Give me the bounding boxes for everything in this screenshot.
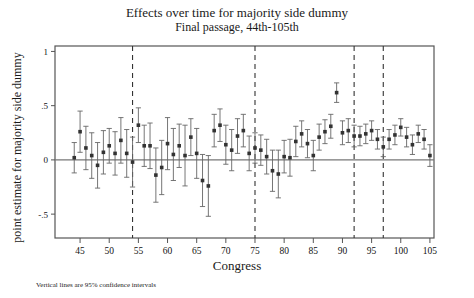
- point-estimate-marker: [381, 145, 385, 149]
- point-estimate-marker: [294, 140, 298, 144]
- point-estimate-marker: [119, 139, 123, 143]
- x-tick-label: 50: [104, 246, 114, 256]
- y-tick-group: 1.50-.5: [38, 47, 55, 220]
- point-estimate-marker: [288, 156, 292, 160]
- x-tick-label: 75: [250, 246, 260, 256]
- point-estimate-marker: [107, 144, 111, 148]
- point-estimate-marker: [416, 132, 420, 136]
- x-tick-label: 65: [192, 246, 202, 256]
- point-estimate-marker: [364, 132, 368, 136]
- point-estimate-marker: [370, 129, 374, 133]
- point-estimate-marker: [422, 137, 426, 141]
- y-tick-label: .5: [41, 101, 48, 111]
- x-tick-label: 100: [394, 246, 409, 256]
- point-estimate-marker: [218, 123, 222, 127]
- point-estimate-marker: [172, 153, 176, 157]
- x-tick-label: 60: [163, 246, 173, 256]
- point-estimate-marker: [177, 144, 181, 148]
- point-estimate-marker: [72, 156, 76, 160]
- point-estimate-marker: [411, 143, 415, 147]
- point-estimate-marker: [166, 142, 170, 146]
- point-estimate-marker: [399, 126, 403, 130]
- point-estimate-marker: [376, 137, 380, 141]
- y-tick-label: 0: [44, 155, 49, 165]
- point-estimate-marker: [323, 130, 327, 134]
- point-estimate-marker: [183, 154, 187, 158]
- point-estimate-marker: [189, 135, 193, 139]
- point-estimate-marker: [102, 151, 106, 155]
- x-tick-label: 80: [279, 246, 289, 256]
- point-estimate-marker: [358, 134, 362, 138]
- point-estimate-marker: [335, 91, 339, 95]
- point-estimate-marker: [393, 133, 397, 137]
- point-estimate-marker: [78, 130, 82, 134]
- x-tick-label: 90: [338, 246, 348, 256]
- point-estimate-marker: [142, 144, 146, 148]
- x-tick-label: 55: [134, 246, 144, 256]
- plot-area: 1.50-.5 4550556065707580859095100105: [0, 0, 474, 298]
- point-estimate-marker: [160, 166, 164, 170]
- point-estimate-marker: [137, 123, 141, 127]
- point-estimate-marker: [148, 144, 152, 148]
- point-estimate-marker: [352, 134, 356, 138]
- x-tick-label: 85: [309, 246, 319, 256]
- point-estimate-marker: [306, 142, 310, 146]
- point-estimate-marker: [84, 146, 88, 150]
- point-estimate-marker: [242, 129, 246, 133]
- point-estimate-marker: [96, 164, 100, 168]
- point-estimate-marker: [125, 152, 129, 156]
- point-estimate-marker: [312, 154, 316, 158]
- point-estimate-marker: [207, 184, 211, 188]
- point-estimate-marker: [317, 135, 321, 139]
- point-estimate-marker: [230, 148, 234, 152]
- point-estimate-marker: [428, 154, 432, 158]
- point-estimate-marker: [224, 143, 228, 147]
- point-estimate-marker: [282, 155, 286, 159]
- y-tick-label: 1: [44, 47, 49, 57]
- x-tick-label: 105: [423, 246, 438, 256]
- point-estimate-marker: [236, 134, 240, 138]
- point-estimate-marker: [265, 155, 269, 159]
- point-estimate-marker: [271, 169, 275, 173]
- point-estimate-marker: [341, 131, 345, 135]
- point-estimate-marker: [346, 129, 350, 133]
- point-estimate-marker: [247, 152, 251, 156]
- point-estimate-marker: [131, 160, 135, 164]
- vertical-dashed-lines: [133, 46, 384, 238]
- point-estimate-marker: [212, 129, 216, 133]
- x-tick-label: 45: [75, 246, 85, 256]
- point-estimate-marker: [300, 132, 304, 136]
- point-estimate-marker: [277, 172, 281, 176]
- y-tick-label: -.5: [38, 210, 48, 220]
- point-estimate-marker: [90, 154, 94, 158]
- point-estimate-marker: [154, 173, 158, 177]
- point-estimate-marker: [195, 152, 199, 156]
- confidence-interval-group: [72, 83, 433, 216]
- point-estimate-marker: [113, 152, 117, 156]
- point-estimate-marker: [405, 135, 409, 139]
- point-estimate-marker: [253, 146, 257, 150]
- point-estimate-marker: [329, 124, 333, 128]
- x-tick-group: 4550556065707580859095100105: [75, 238, 437, 256]
- chart-figure: Effects over time for majority side dumm…: [0, 0, 474, 298]
- x-tick-label: 95: [367, 246, 377, 256]
- point-estimate-marker: [201, 179, 205, 183]
- point-estimate-marker: [387, 137, 391, 141]
- point-estimate-marker: [259, 148, 263, 152]
- x-tick-label: 70: [221, 246, 231, 256]
